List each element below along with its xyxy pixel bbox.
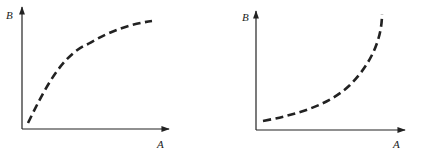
left-curve-saturating bbox=[28, 21, 152, 123]
left-y-axis-label: B bbox=[6, 9, 13, 21]
right-chart: B A bbox=[242, 11, 405, 150]
right-y-axis-label: B bbox=[242, 11, 249, 23]
right-curve-exponential bbox=[263, 14, 382, 121]
right-x-axis-label: A bbox=[392, 138, 400, 150]
left-x-axis-label: A bbox=[156, 138, 164, 150]
left-chart: B A bbox=[6, 7, 169, 150]
figure: B A B A bbox=[0, 0, 422, 158]
